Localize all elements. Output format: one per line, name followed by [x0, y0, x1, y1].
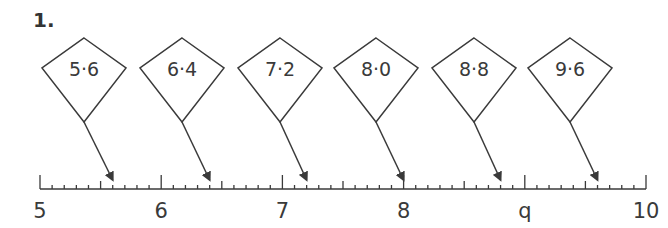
kite-shape [238, 38, 322, 122]
kite-value-label: 9·6 [555, 58, 585, 80]
kite-string-arrow [182, 122, 210, 180]
kite-value-label: 8·8 [459, 58, 489, 80]
kite-value-label: 5·6 [69, 58, 99, 80]
kite: 8·8 [432, 38, 516, 180]
kite-string-arrow [84, 122, 113, 180]
kite-shape [432, 38, 516, 122]
kite-value-label: 8·0 [361, 58, 391, 80]
number-line: 5678q10 [33, 175, 659, 223]
kite-value-label: 7·2 [265, 58, 295, 80]
kite: 5·6 [42, 38, 126, 180]
kite-shape [42, 38, 126, 122]
kite: 8·0 [334, 38, 418, 180]
kite-string-arrow [474, 122, 501, 180]
axis-label: 6 [155, 199, 168, 223]
kite-string-arrow [280, 122, 307, 180]
kite: 9·6 [528, 38, 612, 180]
kite: 6·4 [140, 38, 224, 180]
kite: 7·2 [238, 38, 322, 180]
axis-label: 8 [397, 199, 410, 223]
kite-shape [334, 38, 418, 122]
kite-string-arrow [570, 122, 598, 180]
axis-label: 10 [633, 199, 660, 223]
kite-value-label: 6·4 [167, 58, 197, 80]
kites: 5·66·47·28·08·89·6 [42, 38, 612, 180]
kite-shape [140, 38, 224, 122]
kite-string-arrow [376, 122, 404, 180]
kite-shape [528, 38, 612, 122]
number-line-diagram: 5·66·47·28·08·89·6 5678q10 [0, 0, 668, 228]
axis-label: 7 [276, 199, 289, 223]
axis-label: q [518, 199, 531, 223]
axis-label: 5 [33, 199, 46, 223]
